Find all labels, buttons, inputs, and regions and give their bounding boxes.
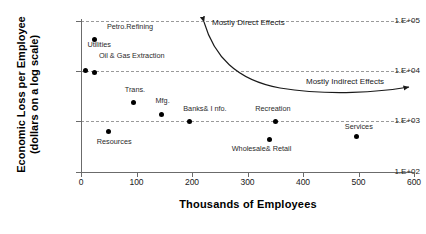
x-tick-label-500: 500 [339,178,379,187]
x-tick-label-400: 400 [283,178,323,187]
y-axis-line [81,19,82,174]
data-point-label: Wholesale& Retail [232,145,292,153]
data-point [267,137,272,142]
mostly-indirect-effects: Mostly Indirect Effects [306,77,384,86]
y-tick-label-1e04: 1.E+04 [374,67,420,75]
data-point [159,112,164,117]
x-tick-label-300: 300 [228,178,268,187]
x-tick-label-100: 100 [117,178,157,187]
data-point-label: Recreation [255,105,290,113]
data-point-label: Banks& I nfo. [183,105,226,113]
data-point [131,100,136,105]
data-point-label: Resources [97,138,132,146]
gridline-1e04 [81,71,414,72]
y-axis-title-line2: (dollars on a log scale) [27,5,40,185]
data-point [83,68,88,73]
data-point [273,119,278,124]
data-point [354,134,359,139]
y-tick-1e04 [76,71,82,72]
data-point [92,70,97,75]
data-point-label: Mfg. [155,97,169,105]
mostly-direct-effects: Mostly Direct Effects [212,18,285,27]
y-axis-title: Economic Loss per Employee (dollars on a… [15,5,40,185]
data-point-label: Trans. [125,86,145,94]
data-point [187,119,192,124]
data-point-label: Petro.Refining [107,23,153,31]
y-tick-1e03 [76,121,82,122]
x-tick-label-600: 600 [394,178,426,187]
data-point-label: Services [345,123,373,131]
y-axis-title-line1: Economic Loss per Employee [15,5,28,185]
data-point-label: Oil & Gas Extraction [99,52,165,60]
y-tick-label-1e03: 1.E+03 [374,117,420,125]
data-point-label: Utilities [87,41,111,49]
y-tick-1e05 [76,21,82,22]
x-tick-label-200: 200 [172,178,212,187]
x-tick-label-0: 0 [61,178,101,187]
y-tick-label-1e05: 1.E+05 [374,17,420,25]
x-axis-title: Thousands of Employees [81,198,415,210]
data-point [106,129,111,134]
